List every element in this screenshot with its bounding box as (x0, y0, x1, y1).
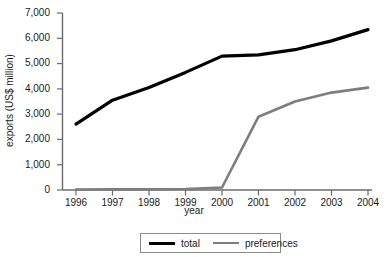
chart-legend: total preferences (140, 233, 281, 253)
y-tick-label: 2,000 (6, 134, 50, 144)
legend-item-preferences: preferences (213, 234, 298, 252)
y-tick-label: 5,000 (6, 58, 50, 68)
x-tick-label: 1996 (58, 198, 94, 208)
x-tick-label: 1997 (95, 198, 131, 208)
x-tick-label: 2002 (277, 198, 313, 208)
y-tick-label: 0 (6, 185, 50, 195)
series-line-preferences (76, 88, 368, 190)
legend-item-total: total (149, 234, 200, 252)
y-tick-label: 3,000 (6, 109, 50, 119)
y-tick-label: 4,000 (6, 84, 50, 94)
legend-label-total: total (181, 238, 200, 249)
legend-label-preferences: preferences (245, 238, 298, 249)
x-tick-label: 1999 (168, 198, 204, 208)
y-axis-ticks (57, 13, 63, 190)
x-tick-label: 1998 (131, 198, 167, 208)
y-tick-label: 1,000 (6, 160, 50, 170)
y-tick-label: 7,000 (6, 8, 50, 18)
x-tick-label: 2001 (241, 198, 277, 208)
plot-area (0, 0, 388, 257)
x-tick-label: 2000 (204, 198, 240, 208)
y-tick-label: 6,000 (6, 33, 50, 43)
x-tick-label: 2004 (350, 198, 386, 208)
series-line-total (76, 30, 368, 125)
chart-container: exports (US$ million) year (0, 0, 388, 257)
legend-swatch-total-icon (149, 242, 175, 245)
x-axis-ticks (76, 190, 368, 196)
x-tick-label: 2003 (314, 198, 350, 208)
legend-swatch-preferences-icon (213, 242, 239, 244)
